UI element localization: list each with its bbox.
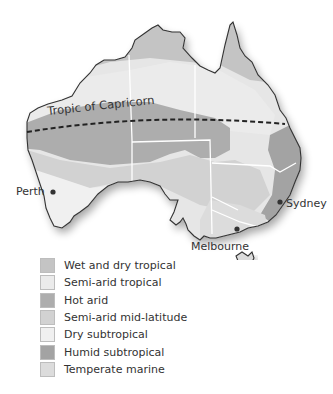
legend-label: Hot arid — [64, 294, 108, 307]
tasmania — [236, 252, 254, 260]
legend-item: Dry subtropical — [40, 326, 187, 343]
australia-climate-map: Tropic of Capricorn Perth Sydney Melbour… — [0, 0, 333, 260]
legend-item: Semi-arid mid-latitude — [40, 309, 187, 326]
legend-item: Wet and dry tropical — [40, 257, 187, 274]
legend-item: Semi-arid tropical — [40, 274, 187, 291]
sydney-marker-icon — [277, 199, 282, 204]
legend-item: Temperate marine — [40, 361, 187, 378]
legend-label: Semi-arid tropical — [64, 276, 162, 289]
legend-label: Dry subtropical — [64, 328, 148, 341]
legend-label: Wet and dry tropical — [64, 259, 176, 272]
legend-swatch-semi-arid-mid-latitude — [40, 310, 55, 325]
legend-swatch-humid-subtropical — [40, 345, 55, 360]
city-label-sydney: Sydney — [286, 197, 327, 210]
map-graphic — [0, 0, 333, 260]
legend-item: Hot arid — [40, 292, 187, 309]
legend-item: Humid subtropical — [40, 343, 187, 360]
city-label-melbourne: Melbourne — [191, 240, 249, 253]
legend-label: Semi-arid mid-latitude — [64, 311, 187, 324]
legend-swatch-temperate-marine — [40, 362, 55, 377]
melbourne-marker-icon — [234, 226, 239, 231]
city-label-perth: Perth — [16, 185, 45, 198]
legend-swatch-dry-subtropical — [40, 327, 55, 342]
legend-label: Humid subtropical — [64, 346, 164, 359]
legend-label: Temperate marine — [64, 363, 165, 376]
perth-marker-icon — [50, 189, 55, 194]
legend-swatch-semi-arid-tropical — [40, 275, 55, 290]
legend: Wet and dry tropical Semi-arid tropical … — [40, 257, 187, 378]
climate-zones — [0, 0, 333, 260]
legend-swatch-hot-arid — [40, 293, 55, 308]
legend-swatch-wet-dry-tropical — [40, 258, 55, 273]
